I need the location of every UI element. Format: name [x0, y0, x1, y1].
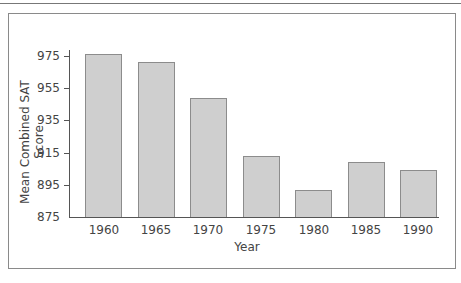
- x-tick-label: 1990: [393, 223, 443, 237]
- x-tick-label: 1965: [131, 223, 181, 237]
- bar-1990: [400, 170, 437, 217]
- x-tick-label: 1970: [183, 223, 233, 237]
- y-axis: [69, 50, 70, 217]
- bar-1975: [243, 156, 280, 217]
- y-tick: [64, 120, 69, 121]
- bar-1980: [295, 190, 332, 217]
- top-rule: [0, 3, 461, 4]
- y-axis-title: Mean Combined SAT Score: [18, 67, 46, 217]
- y-tick: [64, 88, 69, 89]
- y-tick: [64, 153, 69, 154]
- x-axis-title: Year: [222, 240, 272, 254]
- bar-1970: [190, 98, 227, 217]
- x-axis: [69, 217, 439, 218]
- bar-1985: [348, 162, 385, 217]
- x-tick-label: 1975: [236, 223, 286, 237]
- x-tick-label: 1980: [289, 223, 339, 237]
- bar-1965: [138, 62, 175, 217]
- x-tick-label: 1985: [341, 223, 391, 237]
- bar-1960: [85, 54, 122, 217]
- y-tick-label: 975: [20, 50, 60, 62]
- x-tick-label: 1960: [79, 223, 129, 237]
- y-tick: [64, 56, 69, 57]
- y-tick: [64, 185, 69, 186]
